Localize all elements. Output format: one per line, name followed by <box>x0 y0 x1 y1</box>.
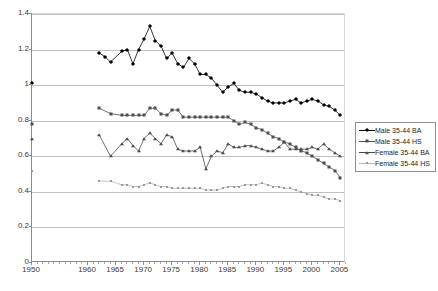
legend-label-male-ba: Male 35-44 BA <box>375 126 421 135</box>
x-axis-tick-label: 1950 <box>22 266 40 274</box>
x-axis-tick-mark <box>59 262 60 264</box>
x-axis-tick-mark <box>295 262 296 264</box>
x-axis-tick-mark <box>244 262 245 264</box>
x-axis-tick-mark <box>37 262 38 264</box>
x-axis-tick-label: 1980 <box>190 266 208 274</box>
x-axis-tick-mark <box>48 262 49 264</box>
x-axis-tick-mark <box>323 262 324 264</box>
legend-label-female-hs: Female 35-44 HS <box>375 159 430 168</box>
legend-marker-diamond-icon <box>359 125 375 136</box>
x-axis-tick-mark <box>205 262 206 264</box>
x-axis-tick-label: 1985 <box>218 266 236 274</box>
x-axis-tick-mark <box>160 262 161 264</box>
x-axis-tick-mark <box>149 262 150 264</box>
x-axis-tick-label: 1965 <box>106 266 124 274</box>
x-axis-tick-mark <box>104 262 105 264</box>
x-axis-tick-label: 1970 <box>134 266 152 274</box>
x-axis-tick-mark <box>334 262 335 264</box>
x-axis-tick-mark <box>126 262 127 264</box>
x-axis-tick-label: 2000 <box>302 266 320 274</box>
x-axis-tick-mark <box>250 262 251 264</box>
x-axis-tick-mark <box>306 262 307 264</box>
x-axis-tick-label: 1975 <box>162 266 180 274</box>
legend-marker-triangle-icon <box>359 147 375 158</box>
x-axis-tick-mark <box>289 262 290 264</box>
x-axis-tick-mark <box>216 262 217 264</box>
legend-label-male-hs: Male 35-44 HS <box>375 137 422 146</box>
legend-marker-dot-icon <box>359 158 375 169</box>
x-axis-tick-label: 1990 <box>246 266 264 274</box>
x-axis-tick-mark <box>317 262 318 264</box>
legend-item-male-ba: Male 35-44 BA <box>359 125 433 136</box>
x-axis-tick-mark <box>182 262 183 264</box>
x-axis-tick-mark <box>278 262 279 264</box>
x-axis-tick-mark <box>138 262 139 264</box>
x-axis-tick-mark <box>154 262 155 264</box>
x-axis-tick-mark <box>261 262 262 264</box>
x-axis-tick-mark <box>188 262 189 264</box>
x-axis-tick-label: 2005 <box>330 266 348 274</box>
x-axis-tick-mark <box>132 262 133 264</box>
x-axis-tick-mark <box>233 262 234 264</box>
chart-legend: Male 35-44 BA Male 35-44 HS Female 35-44… <box>355 122 436 172</box>
x-axis-tick-mark <box>70 262 71 264</box>
x-axis-tick-mark <box>42 262 43 264</box>
x-axis-tick-mark <box>65 262 66 264</box>
x-axis-tick-mark <box>93 262 94 264</box>
x-axis-tick-mark <box>267 262 268 264</box>
x-axis-tick-mark <box>238 262 239 264</box>
x-axis-tick-mark <box>194 262 195 264</box>
x-axis-tick-mark <box>328 262 329 264</box>
legend-label-female-ba: Female 35-44 BA <box>375 148 429 157</box>
x-axis-tick-mark <box>121 262 122 264</box>
x-axis-tick-mark <box>222 262 223 264</box>
x-axis-tick-mark <box>53 262 54 264</box>
legend-item-male-hs: Male 35-44 HS <box>359 136 433 147</box>
chart-root: 00.20.40.60.811.21.4 1950196019651970197… <box>0 0 438 291</box>
legend-item-female-ba: Female 35-44 BA <box>359 147 433 158</box>
x-axis-tick-mark <box>110 262 111 264</box>
x-axis-tick-mark <box>81 262 82 264</box>
x-axis-tick-mark <box>98 262 99 264</box>
x-axis-tick-mark <box>210 262 211 264</box>
x-axis-tick-mark <box>345 262 346 264</box>
x-axis-tick-mark <box>177 262 178 264</box>
x-axis-tick-mark <box>272 262 273 264</box>
x-axis-tick-mark <box>300 262 301 264</box>
legend-item-female-hs: Female 35-44 HS <box>359 158 433 169</box>
legend-marker-square-icon <box>359 136 375 147</box>
x-axis-tick-mark <box>76 262 77 264</box>
x-axis-tick-mark <box>166 262 167 264</box>
x-axis-tick-label: 1960 <box>78 266 96 274</box>
x-axis-tick-label: 1995 <box>274 266 292 274</box>
